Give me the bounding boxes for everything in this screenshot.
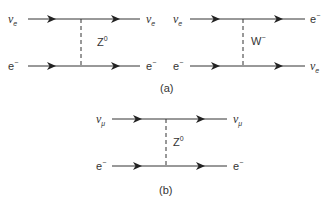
label-out-bottom: e− [233, 159, 243, 172]
label-in-bottom: e− [96, 159, 106, 172]
panel-a-caption: (a) [160, 82, 173, 94]
label-in-top: νe [173, 12, 182, 27]
label-in-top: νμ [96, 112, 105, 128]
label-out-top: νμ [233, 112, 242, 128]
label-boson: W− [251, 34, 265, 47]
label-out-bottom: νe [310, 59, 319, 74]
label-boson: Z0 [173, 135, 184, 148]
label-in-bottom: e− [8, 59, 18, 72]
diagram-b-muon-neutrino: νμ νμ e− e− Z0 [96, 112, 243, 172]
feynman-diagrams-figure: νe νe e− e− Z0 νe e− e− νe W− (a) νμ νμ … [0, 0, 333, 204]
label-out-bottom: e− [146, 59, 156, 72]
label-in-top: νe [8, 12, 17, 27]
label-in-bottom: e− [173, 59, 183, 72]
diagram-a2-charged-current: νe e− e− νe W− [173, 12, 320, 74]
label-out-top: νe [146, 12, 155, 27]
diagram-a1-neutral-current: νe νe e− e− Z0 [8, 12, 156, 72]
panel-b-caption: (b) [159, 184, 172, 196]
label-boson: Z0 [97, 35, 108, 48]
label-out-top: e− [310, 12, 320, 25]
